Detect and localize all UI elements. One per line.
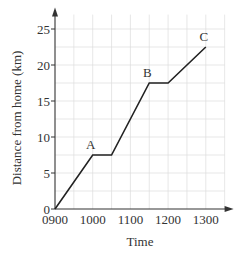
y-axis-label: Distance from home (km) [9, 51, 24, 186]
x-tick-label: 0900 [42, 212, 68, 227]
y-tick-label: 15 [37, 94, 50, 109]
x-axis-label: Time [127, 234, 154, 249]
y-axis-arrow-icon [52, 8, 58, 17]
point-label-c: C [199, 29, 208, 44]
point-label-b: B [143, 65, 152, 80]
point-labels: ABC [86, 29, 208, 152]
y-tick-label: 5 [44, 166, 51, 181]
y-tick-label: 10 [37, 130, 50, 145]
x-tick-label: 1000 [80, 212, 106, 227]
x-axis-arrow-icon [225, 206, 234, 212]
point-label-a: A [86, 137, 96, 152]
x-tick-label: 1200 [155, 212, 181, 227]
y-tick-label: 25 [37, 22, 50, 37]
distance-time-graph: 051015202509001000110012001300 ABC Time … [0, 0, 237, 257]
x-tick-label: 1300 [193, 212, 219, 227]
y-tick-label: 20 [37, 58, 50, 73]
x-tick-label: 1100 [118, 212, 144, 227]
